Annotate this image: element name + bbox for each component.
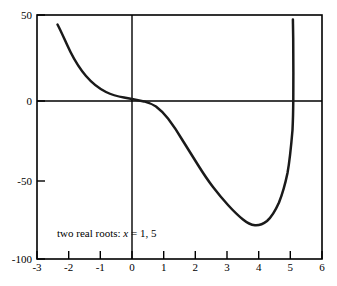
x-tick-label-4: 4 xyxy=(249,262,269,273)
annotation-equals: = xyxy=(128,227,140,239)
x-tick-label-2: 2 xyxy=(185,262,205,273)
y-tick-label--50: -50 xyxy=(4,176,32,187)
roots-annotation: two real roots: x = 1, 5 xyxy=(57,227,156,240)
x-tick-label--3: -3 xyxy=(27,262,47,273)
x-tick-label-5: 5 xyxy=(280,262,300,273)
x-axis-ticks xyxy=(37,251,322,259)
plot-area xyxy=(0,0,337,286)
annotation-roots: 1, 5 xyxy=(140,227,157,239)
x-tick-label-1: 1 xyxy=(154,262,174,273)
y-tick-label-50: 50 xyxy=(6,10,32,21)
x-tick-label-6: 6 xyxy=(312,262,332,273)
data-curve xyxy=(58,20,294,226)
y-axis-ticks xyxy=(37,15,45,259)
x-tick-label-0: 0 xyxy=(122,262,142,273)
x-tick-label--2: -2 xyxy=(59,262,79,273)
chart-figure: 50 0 -50 -100 -3 -2 -1 0 1 2 3 4 5 6 two… xyxy=(0,0,337,286)
y-tick-label-0: 0 xyxy=(6,96,32,107)
x-tick-label-3: 3 xyxy=(217,262,237,273)
annotation-prefix: two real roots: xyxy=(57,227,123,239)
x-tick-label--1: -1 xyxy=(90,262,110,273)
